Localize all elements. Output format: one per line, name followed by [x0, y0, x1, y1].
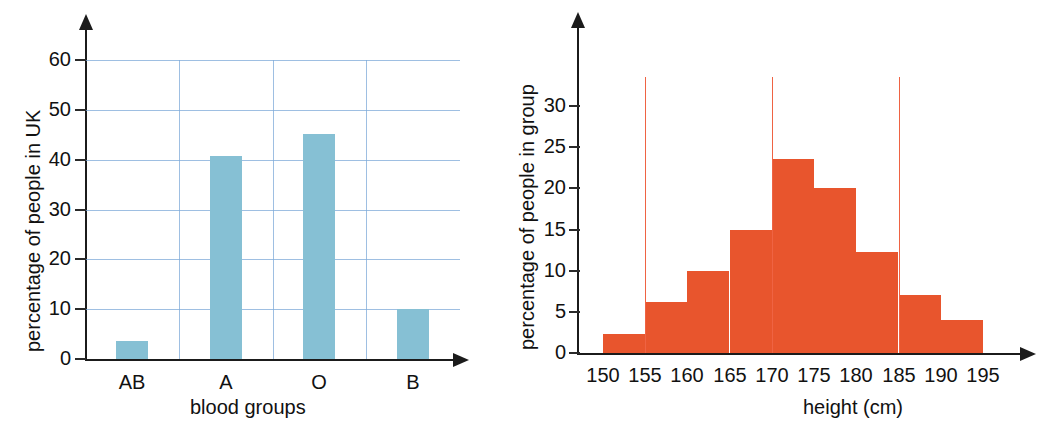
right-y-tick	[569, 270, 580, 272]
left-x-tick-label: AB	[87, 372, 177, 392]
right-histogram-bar	[814, 188, 856, 353]
right-y-tick	[569, 146, 580, 148]
left-y-tick-label: 60	[19, 49, 71, 69]
right-x-tick-label: 160	[663, 365, 711, 385]
right-y-tick	[569, 105, 580, 107]
right-x-tick-label: 155	[621, 365, 669, 385]
left-x-axis-title: blood groups	[190, 396, 306, 418]
left-x-tick-label: A	[181, 372, 271, 392]
right-x-tick-label: 195	[959, 365, 1007, 385]
left-gridline-vertical	[179, 60, 180, 359]
right-histogram-bar	[856, 252, 898, 353]
left-y-tick	[75, 159, 86, 161]
right-histogram-bar	[941, 320, 983, 353]
right-x-tick-label: 185	[875, 365, 923, 385]
right-x-axis-title: height (cm)	[803, 396, 903, 418]
right-x-axis-arrow-icon	[1020, 347, 1036, 361]
left-y-axis	[85, 30, 87, 361]
left-x-axis	[85, 359, 455, 361]
left-x-tick-label: O	[274, 372, 364, 392]
left-bar	[210, 156, 242, 359]
right-reference-line	[772, 77, 773, 353]
right-histogram-bar	[687, 271, 729, 353]
left-y-tick-label: 0	[19, 348, 71, 368]
right-y-axis-arrow-icon	[571, 12, 585, 28]
left-y-tick	[75, 209, 86, 211]
right-y-tick	[569, 352, 580, 354]
right-x-tick-label: 175	[790, 365, 838, 385]
right-histogram-bar	[603, 334, 645, 353]
left-y-tick-label: 50	[19, 99, 71, 119]
left-y-tick-label: 20	[19, 248, 71, 268]
left-x-tick-label: B	[368, 372, 458, 392]
left-x-axis-arrow-icon	[453, 353, 469, 367]
left-y-tick-label: 40	[19, 149, 71, 169]
left-y-tick-label: 30	[19, 199, 71, 219]
right-y-tick-label: 25	[516, 136, 566, 156]
left-bar	[397, 309, 429, 359]
charts-page: percentage of people in UK blood groups …	[0, 0, 1055, 430]
right-y-tick-label: 10	[516, 260, 566, 280]
left-y-tick	[75, 358, 86, 360]
left-y-tick-label: 10	[19, 298, 71, 318]
right-x-tick-label: 150	[579, 365, 627, 385]
right-histogram-bar	[772, 159, 814, 353]
left-bar	[303, 134, 335, 359]
right-y-tick-label: 15	[516, 219, 566, 239]
right-reference-line	[899, 77, 900, 353]
right-y-tick-label: 30	[516, 95, 566, 115]
right-y-tick	[569, 311, 580, 313]
right-y-tick-label: 0	[516, 342, 566, 362]
blood-groups-chart: percentage of people in UK blood groups …	[0, 0, 500, 430]
left-y-axis-arrow-icon	[79, 14, 93, 30]
right-y-tick	[569, 229, 580, 231]
right-x-tick-label: 190	[917, 365, 965, 385]
right-y-tick-label: 20	[516, 177, 566, 197]
height-histogram-chart: percentage of people in group height (cm…	[500, 0, 1055, 430]
right-x-tick-label: 170	[748, 365, 796, 385]
left-y-tick	[75, 258, 86, 260]
right-y-tick-label: 5	[516, 301, 566, 321]
left-y-tick	[75, 59, 86, 61]
left-gridline-vertical	[273, 60, 274, 359]
right-histogram-bar	[899, 295, 941, 353]
left-y-tick	[75, 109, 86, 111]
right-histogram-bar	[730, 230, 772, 353]
right-histogram-bar	[645, 302, 687, 353]
right-y-tick	[569, 187, 580, 189]
right-reference-line	[645, 77, 646, 353]
left-gridline-vertical	[366, 60, 367, 359]
right-x-tick-label: 165	[706, 365, 754, 385]
right-y-axis	[577, 28, 579, 355]
left-y-tick	[75, 308, 86, 310]
right-x-axis	[577, 353, 1022, 355]
right-x-tick-label: 180	[832, 365, 880, 385]
left-bar	[116, 341, 148, 359]
